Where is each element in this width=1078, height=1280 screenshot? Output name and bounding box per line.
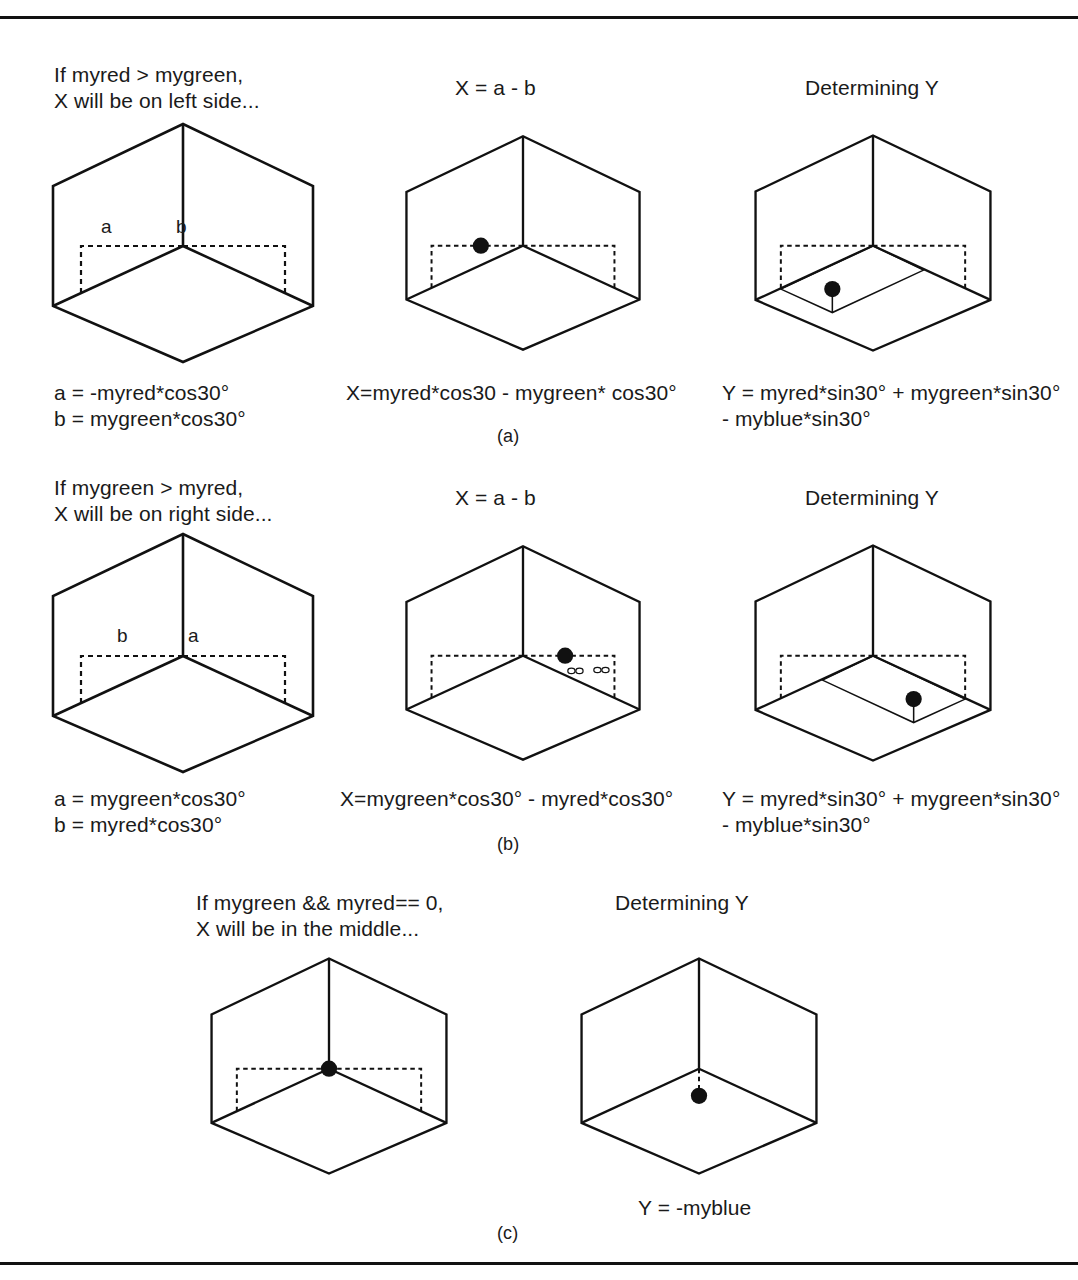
cube-a1 bbox=[38, 118, 328, 368]
panel-label-b: (b) bbox=[497, 833, 519, 856]
point-x-marker bbox=[557, 648, 573, 664]
panel-c1-heading-line1: If mygreen && myred== 0, bbox=[196, 890, 444, 916]
cube-b2 bbox=[393, 528, 653, 778]
cube-b1-label-right: a bbox=[188, 624, 199, 648]
point-x-marker bbox=[321, 1061, 337, 1077]
panel-b3-caption-line2: - myblue*sin30° bbox=[722, 812, 871, 838]
point-y-marker bbox=[906, 691, 922, 707]
panel-b1-caption-line2: b = myred*cos30° bbox=[54, 812, 222, 838]
panel-a1-heading-line2: X will be on left side... bbox=[54, 88, 260, 114]
cube-c1 bbox=[198, 946, 460, 1186]
panel-c1-heading-line2: X will be in the middle... bbox=[196, 916, 419, 942]
cube-c2 bbox=[568, 946, 830, 1186]
panel-c2-caption-line1: Y = -myblue bbox=[638, 1195, 751, 1221]
top-rule bbox=[0, 16, 1078, 19]
panel-a1-caption-line2: b = mygreen*cos30° bbox=[54, 406, 246, 432]
cube-b1 bbox=[38, 528, 328, 778]
panel-a3-caption-line2: - myblue*sin30° bbox=[722, 406, 871, 432]
point-y-marker bbox=[691, 1088, 707, 1104]
panel-b3-heading-line1: Determining Y bbox=[805, 485, 939, 511]
point-x-marker bbox=[473, 238, 489, 254]
point-y-marker bbox=[824, 281, 840, 297]
cube-a1-label-left: a bbox=[101, 215, 112, 239]
panel-a2-heading-line1: X = a - b bbox=[455, 75, 536, 101]
cube-b3 bbox=[742, 528, 1004, 778]
panel-a1-caption-line1: a = -myred*cos30° bbox=[54, 380, 229, 406]
figure-page: If myred > mygreen, X will be on left si… bbox=[0, 0, 1078, 1280]
print-artifact-marks bbox=[568, 667, 609, 673]
panel-b2-caption-line1: X=mygreen*cos30° - myred*cos30° bbox=[340, 786, 673, 812]
bottom-rule bbox=[0, 1262, 1078, 1265]
panel-b3-caption-line1: Y = myred*sin30° + mygreen*sin30° bbox=[722, 786, 1060, 812]
cube-a3 bbox=[742, 118, 1004, 368]
panel-b1-heading-line2: X will be on right side... bbox=[54, 501, 273, 527]
panel-a3-caption-line1: Y = myred*sin30° + mygreen*sin30° bbox=[722, 380, 1060, 406]
panel-a2-caption-line1: X=myred*cos30 - mygreen* cos30° bbox=[346, 380, 677, 406]
panel-a1-heading-line1: If myred > mygreen, bbox=[54, 62, 243, 88]
panel-b1-caption-line1: a = mygreen*cos30° bbox=[54, 786, 246, 812]
cube-a2 bbox=[393, 118, 653, 368]
panel-a3-heading-line1: Determining Y bbox=[805, 75, 939, 101]
cube-b1-label-left: b bbox=[117, 624, 128, 648]
panel-label-a: (a) bbox=[497, 425, 519, 448]
panel-label-c: (c) bbox=[497, 1222, 518, 1245]
panel-c2-heading-line1: Determining Y bbox=[615, 890, 749, 916]
panel-b1-heading-line1: If mygreen > myred, bbox=[54, 475, 243, 501]
panel-b2-heading-line1: X = a - b bbox=[455, 485, 536, 511]
cube-a1-label-right: b bbox=[176, 215, 187, 239]
